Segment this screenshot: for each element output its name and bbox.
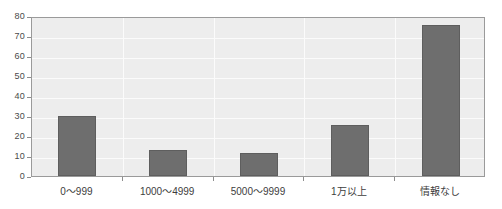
y-axis-tick-label: 60: [1, 52, 25, 61]
y-axis-tick-label: 0: [1, 172, 25, 181]
x-axis-category-label: 1000～4999: [140, 186, 195, 198]
gridline-vertical: [395, 18, 396, 176]
bar-chart: 01020304050607080 0～9991000～49995000～999…: [0, 0, 502, 209]
y-axis-tick-label: 10: [1, 152, 25, 161]
gridline-horizontal: [32, 58, 484, 59]
gridline-vertical: [123, 18, 124, 176]
gridline-horizontal: [32, 138, 484, 139]
y-axis-tick-label: 70: [1, 32, 25, 41]
y-axis-tick-label: 50: [1, 72, 25, 81]
gridline-horizontal: [32, 118, 484, 119]
gridline-horizontal: [32, 38, 484, 39]
x-axis-category-label: 5000～9999: [231, 186, 286, 198]
gridline-vertical: [214, 18, 215, 176]
y-axis-tick-mark: [27, 177, 31, 178]
y-axis-tick-label: 40: [1, 92, 25, 101]
bar[interactable]: [240, 153, 278, 176]
bar[interactable]: [58, 116, 96, 176]
x-axis-tick-mark: [122, 177, 123, 181]
y-axis-tick-label: 30: [1, 112, 25, 121]
bar[interactable]: [331, 125, 369, 176]
plot-area: [31, 17, 485, 177]
bar[interactable]: [422, 25, 460, 176]
x-axis-category-label: 0～999: [60, 186, 92, 198]
y-axis-tick-label: 80: [1, 12, 25, 21]
gridline-vertical: [304, 18, 305, 176]
x-axis-category-label: 1万以上: [331, 186, 367, 198]
x-axis-tick-mark: [303, 177, 304, 181]
bar[interactable]: [149, 150, 187, 176]
x-axis-tick-mark: [213, 177, 214, 181]
y-axis-tick-label: 20: [1, 132, 25, 141]
x-axis-tick-mark: [394, 177, 395, 181]
gridline-horizontal: [32, 98, 484, 99]
x-axis-category-label: 情報なし: [420, 186, 460, 198]
gridline-horizontal: [32, 78, 484, 79]
